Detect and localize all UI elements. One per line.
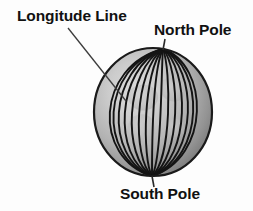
label-north-pole: North Pole <box>154 22 231 38</box>
label-south-pole: South Pole <box>120 186 200 202</box>
label-longitude-line: Longitude Line <box>17 8 127 24</box>
globe-diagram: Longitude Line North Pole South Pole <box>0 0 253 211</box>
